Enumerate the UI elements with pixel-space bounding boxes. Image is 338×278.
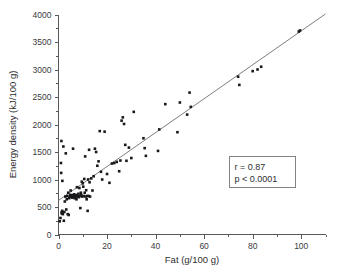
data-point: [101, 178, 104, 181]
x-tick-label: 0: [56, 241, 61, 251]
data-point: [260, 65, 263, 68]
data-point: [88, 149, 91, 152]
data-point: [123, 123, 126, 126]
data-point: [88, 181, 91, 184]
data-point: [188, 91, 191, 94]
data-point: [122, 116, 125, 119]
y-tick-label: 2500: [33, 92, 52, 102]
data-point: [81, 182, 84, 185]
data-point: [103, 130, 106, 133]
data-point: [84, 155, 87, 158]
data-point: [82, 185, 85, 188]
data-point: [83, 178, 86, 181]
data-point: [237, 75, 240, 78]
data-point: [86, 210, 89, 213]
data-point: [120, 119, 123, 122]
data-point: [62, 145, 65, 148]
data-point: [75, 198, 78, 201]
x-axis-title: Fat (g/100 g): [165, 254, 219, 265]
data-point: [164, 103, 167, 106]
data-point: [98, 130, 101, 133]
data-point: [92, 175, 95, 178]
data-point: [90, 177, 93, 180]
x-tick-label: 80: [248, 241, 258, 251]
data-point: [111, 162, 114, 165]
data-point: [130, 157, 133, 160]
y-tick-label: 3000: [33, 65, 52, 75]
data-point: [94, 147, 97, 150]
data-point: [157, 150, 160, 153]
data-point: [91, 189, 94, 192]
data-point: [60, 162, 63, 165]
y-tick-label: 2000: [33, 120, 52, 130]
x-tick-label: 40: [151, 241, 161, 251]
data-point: [58, 220, 61, 223]
data-point: [60, 172, 63, 175]
data-point: [100, 171, 103, 174]
data-point: [119, 159, 122, 162]
data-point: [59, 217, 62, 220]
data-point: [83, 191, 86, 194]
data-point: [299, 29, 302, 32]
y-tick-label: 3500: [33, 37, 52, 47]
data-point: [89, 195, 92, 198]
data-point: [251, 70, 254, 73]
pvalue-label: p < 0.0001: [235, 174, 278, 184]
data-point: [64, 152, 67, 155]
y-tick-label: 500: [37, 202, 51, 212]
y-tick-label: 1000: [33, 175, 52, 185]
y-tick-label: 0: [47, 230, 52, 240]
data-point: [176, 131, 179, 134]
data-point: [87, 178, 90, 181]
y-tick-label: 1500: [33, 147, 52, 157]
data-point: [65, 208, 68, 211]
data-point: [97, 160, 100, 163]
data-point: [85, 198, 88, 201]
y-axis-title: Energy density (kJ/100 g): [7, 71, 18, 179]
data-point: [63, 219, 66, 222]
x-axis-tick-labels: 020406080100: [56, 241, 308, 251]
y-axis-tick-labels: 05001000150020002500300035004000: [33, 10, 52, 240]
data-point: [106, 173, 109, 176]
data-point: [65, 198, 68, 201]
x-tick-label: 100: [294, 241, 308, 251]
data-point: [125, 160, 128, 163]
stats-box: r = 0.87 p < 0.0001: [230, 157, 296, 188]
data-point: [128, 146, 131, 149]
y-tick-label: 4000: [33, 10, 52, 20]
y-axis-ticks: [55, 16, 59, 236]
data-point: [108, 182, 111, 185]
data-point: [95, 151, 98, 154]
data-point: [158, 128, 161, 131]
data-point: [186, 113, 189, 116]
data-point: [143, 147, 146, 150]
data-point: [238, 84, 241, 87]
data-point: [79, 207, 82, 210]
figure-container: 05001000150020002500300035004000 0204060…: [0, 0, 338, 278]
data-point: [124, 144, 127, 147]
data-point: [76, 186, 79, 189]
data-point: [63, 211, 66, 214]
data-point: [60, 140, 63, 143]
data-point: [256, 68, 259, 71]
data-point: [85, 189, 88, 192]
x-axis-ticks: [60, 235, 327, 239]
data-point: [118, 170, 121, 173]
x-tick-label: 60: [199, 241, 209, 251]
data-point: [189, 106, 192, 109]
data-point: [115, 161, 118, 164]
data-point: [113, 162, 116, 165]
data-points: [58, 29, 301, 222]
scatter-plot: 05001000150020002500300035004000 0204060…: [0, 0, 338, 278]
data-point: [179, 101, 182, 104]
data-point: [67, 214, 70, 217]
plot-axes: [59, 15, 326, 235]
data-point: [132, 111, 135, 114]
data-point: [96, 164, 99, 167]
x-tick-label: 20: [102, 241, 112, 251]
data-point: [69, 189, 72, 192]
data-point: [61, 180, 64, 183]
data-point: [72, 147, 75, 150]
data-point: [142, 137, 145, 140]
data-point: [78, 187, 81, 190]
